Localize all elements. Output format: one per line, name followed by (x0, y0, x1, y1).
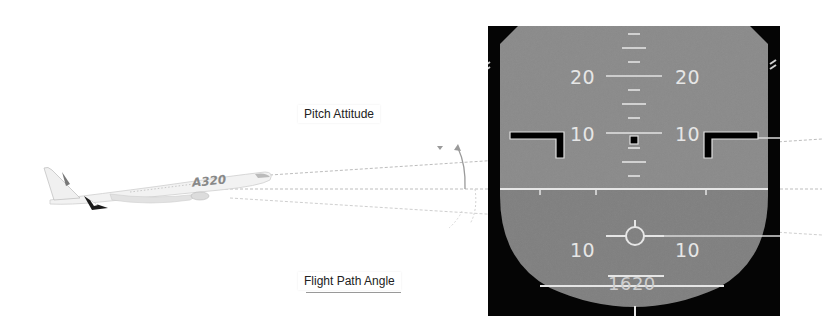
pitch-scale-10-right: 10 (675, 123, 700, 145)
bank-limit-marks-left (488, 62, 490, 71)
arrowhead-icon (454, 144, 461, 151)
flight-path-arc-icon (470, 189, 476, 224)
label-underline (306, 292, 401, 293)
airplane-icon (44, 167, 271, 210)
primary-flight-display: 20 20 10 10 10 10 1620 (488, 26, 780, 316)
flight-path-angle-label: Flight Path Angle (298, 272, 401, 290)
bank-limit-marks-right (770, 60, 776, 69)
flight-path-arc-icon (449, 211, 462, 228)
pitch-arc-icon (458, 148, 465, 189)
pitch-scale-20-left: 20 (570, 66, 595, 88)
pitch-attitude-label: Pitch Attitude (298, 105, 380, 123)
pitch-scale-neg10-left: 10 (570, 239, 595, 261)
arrowhead-icon (437, 146, 443, 150)
pitch-scale-neg10-right: 10 (675, 239, 700, 261)
pitch-attitude-label-text: Pitch Attitude (304, 107, 374, 121)
aircraft-illustration: A320 (40, 150, 280, 220)
altitude-readout: 1620 (608, 273, 656, 294)
flight-path-angle-label-text: Flight Path Angle (304, 274, 395, 288)
pitch-scale-20-right: 20 (675, 66, 700, 88)
aircraft-symbol-center (630, 136, 638, 144)
pitch-scale-10-left: 10 (570, 123, 595, 145)
